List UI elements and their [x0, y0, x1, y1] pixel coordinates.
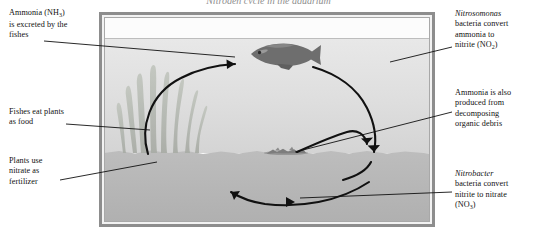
label-decomp-line1: Ammonia is also [455, 88, 511, 97]
label-decomp-line4: organic debris [455, 119, 502, 128]
label-fishes-line2: as food [9, 117, 33, 126]
label-plants-line2: nitrate as [9, 166, 39, 175]
gravel-substrate [104, 151, 430, 223]
label-nitrosomonas-species: Nitrosomonas [455, 9, 501, 18]
label-ammonia-decomposing: Ammonia is also produced from decomposin… [455, 88, 535, 130]
label-ammonia-line1: Ammonia (NH [9, 8, 59, 17]
label-decomp-line2: produced from [455, 98, 504, 107]
label-fishes-eat-plants: Fishes eat plants as food [9, 107, 104, 128]
label-nitrobacter-line3: nitrite to nitrate [455, 190, 507, 199]
label-ammonia-line2: is excreted by the [9, 20, 67, 29]
figure-title: Nitrogen cycle in the aquarium [0, 0, 537, 4]
aquarium-illustration [99, 12, 435, 232]
label-nitrosomonas: Nitrosomonas bacteria convert ammonia to… [455, 9, 535, 52]
label-nitrobacter: Nitrobacter bacteria convert nitrite to … [455, 169, 535, 212]
label-nitrobacter-species: Nitrobacter [455, 169, 493, 178]
label-nitrobacter-line4-end: ) [473, 200, 476, 209]
air-space [104, 17, 430, 39]
label-ammonia-excreted: Ammonia (NH3) is excreted by the fishes [9, 8, 104, 41]
label-plants-line1: Plants use [9, 156, 42, 165]
label-nitrosomonas-line2: bacteria convert [455, 19, 508, 28]
label-ammonia-line3: fishes [9, 30, 28, 39]
label-nitrosomonas-line4-end: ) [495, 40, 498, 49]
label-nitrosomonas-line3: ammonia to [455, 30, 494, 39]
label-nitrobacter-line2: bacteria convert [455, 179, 508, 188]
label-fishes-line1: Fishes eat plants [9, 107, 64, 116]
label-decomp-line3: decomposing [455, 109, 499, 118]
label-ammonia-line1-end: ) [62, 8, 65, 17]
label-nitrobacter-line4: (NO [455, 200, 470, 209]
label-plants-line3: fertilizer [9, 177, 38, 186]
label-nitrosomonas-line4: nitrite (NO [455, 40, 492, 49]
label-plants-use-nitrate: Plants use nitrate as fertilizer [9, 156, 84, 187]
